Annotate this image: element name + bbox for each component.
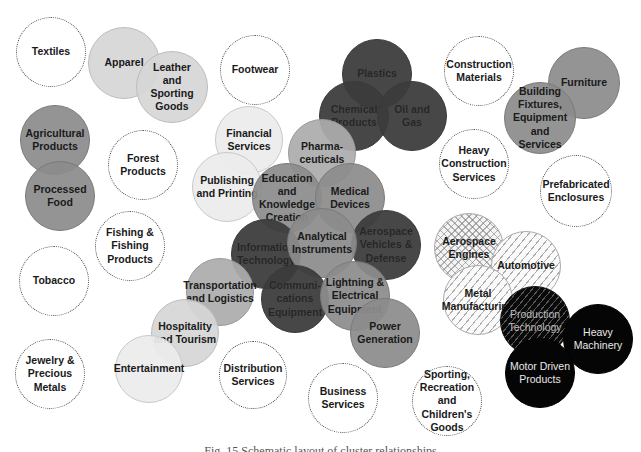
cluster-label: Motor Driven Products — [510, 360, 570, 386]
cluster-circle-fishing: Fishing & Fishing Products — [95, 211, 165, 281]
cluster-label: Building Fixtures, Equipment and Service… — [513, 85, 567, 151]
cluster-label: Distribution Services — [224, 362, 283, 388]
cluster-label: Footwear — [232, 63, 279, 76]
cluster-circle-forest: Forest Products — [108, 130, 178, 200]
cluster-circle-entertainment: Entertainment — [115, 335, 183, 403]
cluster-label: Forest Products — [120, 152, 166, 178]
cluster-label: Plastics — [357, 67, 397, 80]
cluster-circle-heavy-construction: Heavy Construction Services — [439, 129, 509, 199]
cluster-label: Sporting, Recreation and Children's Good… — [413, 368, 481, 434]
cluster-label: Agricultural Products — [26, 127, 85, 153]
cluster-label: Oil and Gas — [394, 103, 430, 129]
cluster-label: Textiles — [32, 45, 70, 58]
cluster-circle-construction-materials: Construction Materials — [444, 36, 514, 106]
cluster-label: Production Technology — [508, 308, 561, 334]
cluster-label: Construction Materials — [446, 58, 511, 84]
cluster-label: Leather and Sporting Goods — [150, 61, 193, 114]
cluster-circle-processed-food: Processed Food — [25, 161, 95, 231]
cluster-circle-textiles: Textiles — [16, 17, 86, 87]
cluster-label: Analytical Instruments — [292, 230, 352, 256]
cluster-circle-jewelry: Jewelry & Precious Metals — [15, 339, 85, 409]
cluster-circle-business: Business Services — [308, 363, 378, 433]
cluster-label: Aerospace Vehicles & Defense — [359, 225, 413, 264]
cluster-label: Communi- cations Equipment — [268, 279, 322, 318]
cluster-circle-tobacco: Tobacco — [19, 246, 89, 316]
cluster-circle-prefab: Prefabricated Enclosures — [540, 155, 612, 227]
cluster-label: Aerospace Engines — [442, 235, 496, 261]
cluster-label: Pharma- ceuticals — [300, 140, 345, 166]
cluster-circle-footwear: Footwear — [220, 35, 290, 105]
cluster-label: Automotive — [497, 259, 555, 272]
cluster-label: Fishing & Fishing Products — [106, 226, 154, 265]
cluster-label: Heavy Machinery — [574, 326, 622, 352]
cluster-circle-sporting: Sporting, Recreation and Children's Good… — [412, 366, 482, 436]
cluster-circle-publishing: Publishing and Printing — [192, 152, 262, 222]
cluster-bubble-diagram: TextilesApparelLeather and Sporting Good… — [0, 0, 641, 452]
cluster-label: Furniture — [561, 76, 607, 89]
cluster-label: Heavy Construction Services — [441, 144, 506, 183]
cluster-circle-motor-driven: Motor Driven Products — [505, 338, 575, 408]
cluster-label: Publishing and Printing — [196, 174, 257, 200]
cluster-label: Power Generation — [357, 320, 412, 346]
cluster-label: Tobacco — [33, 274, 75, 287]
cluster-label: Prefabricated Enclosures — [542, 178, 609, 204]
cluster-label: Business Services — [320, 385, 367, 411]
cluster-circle-distribution: Distribution Services — [219, 341, 287, 409]
cluster-label: Processed Food — [33, 183, 86, 209]
cluster-circle-power-gen: Power Generation — [350, 298, 420, 368]
cluster-label: Jewelry & Precious Metals — [25, 354, 74, 393]
cluster-label: Apparel — [104, 56, 143, 69]
cluster-circle-leather: Leather and Sporting Goods — [136, 51, 208, 123]
cluster-label: Financial Services — [226, 127, 272, 153]
figure-caption: Fig. 15 Schematic layout of cluster rela… — [0, 444, 641, 452]
cluster-label: Medical Devices — [330, 185, 370, 211]
cluster-circle-oil-gas: Oil and Gas — [377, 81, 447, 151]
cluster-circle-communications: Communi- cations Equipment — [261, 265, 329, 333]
cluster-circle-building-fixtures: Building Fixtures, Equipment and Service… — [504, 82, 576, 154]
cluster-label: Entertainment — [114, 362, 185, 375]
